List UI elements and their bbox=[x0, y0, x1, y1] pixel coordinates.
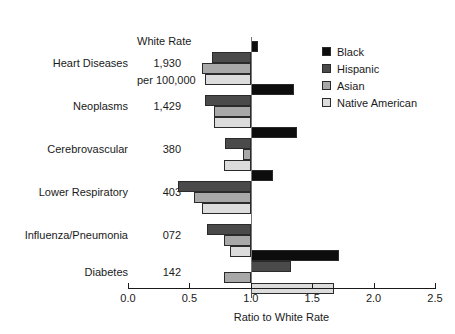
legend-label: Hispanic bbox=[337, 63, 379, 75]
bar bbox=[251, 250, 339, 261]
x-axis-tick bbox=[128, 283, 129, 289]
legend-swatch-icon bbox=[322, 98, 331, 107]
bar bbox=[251, 84, 294, 95]
x-axis-tick bbox=[312, 283, 313, 289]
bar bbox=[225, 138, 251, 149]
bar bbox=[207, 224, 251, 235]
bar bbox=[251, 41, 258, 52]
x-axis-tick-label: 0.0 bbox=[108, 292, 148, 305]
x-axis-tick-label: 0.5 bbox=[169, 292, 209, 305]
legend-swatch-icon bbox=[322, 81, 331, 90]
legend: BlackHispanicAsianNative American bbox=[322, 44, 417, 112]
legend-label: Asian bbox=[337, 80, 365, 92]
bar bbox=[251, 261, 292, 272]
bar bbox=[202, 203, 251, 214]
ratio-to-white-rate-chart: White Rate per 100,000 Heart DiseasesNeo… bbox=[0, 0, 455, 334]
legend-item: Native American bbox=[322, 95, 417, 110]
x-axis-tick-label: 2.5 bbox=[415, 292, 455, 305]
bar bbox=[230, 246, 251, 257]
bar bbox=[205, 95, 250, 106]
bar bbox=[251, 170, 273, 181]
x-axis-tick bbox=[189, 283, 190, 289]
bar bbox=[251, 127, 298, 138]
legend-item: Black bbox=[322, 44, 417, 59]
x-axis-line bbox=[128, 288, 435, 289]
bar bbox=[224, 235, 251, 246]
bar bbox=[214, 117, 251, 128]
legend-swatch-icon bbox=[322, 47, 331, 56]
baseline-axis-line bbox=[251, 37, 252, 288]
bar bbox=[205, 74, 250, 85]
bar bbox=[224, 272, 251, 283]
legend-swatch-icon bbox=[322, 64, 331, 73]
bar bbox=[224, 160, 251, 171]
bar bbox=[214, 106, 251, 117]
x-axis-tick bbox=[374, 283, 375, 289]
bar bbox=[178, 181, 250, 192]
legend-item: Asian bbox=[322, 78, 417, 93]
x-axis-title: Ratio to White Rate bbox=[128, 311, 435, 324]
bar bbox=[243, 149, 250, 160]
bar bbox=[194, 192, 250, 203]
legend-label: Black bbox=[337, 46, 364, 58]
bar bbox=[212, 52, 251, 63]
x-axis-tick bbox=[435, 283, 436, 289]
legend-label: Native American bbox=[337, 97, 417, 109]
legend-item: Hispanic bbox=[322, 61, 417, 76]
bar bbox=[202, 63, 251, 74]
x-axis-tick-label: 2.0 bbox=[354, 292, 394, 305]
x-axis-tick bbox=[251, 283, 252, 289]
x-axis-tick-label: 1.0 bbox=[231, 292, 271, 305]
x-axis-tick-label: 1.5 bbox=[292, 292, 332, 305]
